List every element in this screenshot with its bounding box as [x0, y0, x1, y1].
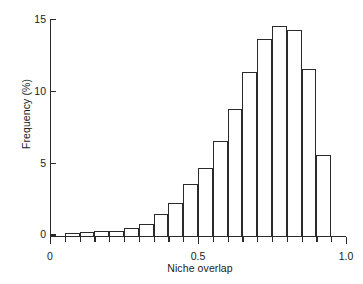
x-tick-label: 0.5	[191, 250, 206, 262]
x-axis-title: Niche overlap	[50, 262, 350, 274]
x-minor-tick	[109, 237, 110, 242]
x-minor-tick	[154, 237, 155, 242]
x-tick-label: 0	[47, 250, 53, 262]
histogram-bar	[65, 233, 80, 236]
x-minor-tick	[80, 237, 81, 242]
x-minor-tick	[302, 237, 303, 242]
x-minor-tick	[139, 237, 140, 242]
histogram-figure: Frequency (%) 051015 00.51.0 Niche overl…	[0, 0, 363, 284]
x-minor-tick	[183, 237, 184, 242]
histogram-bars	[50, 20, 346, 236]
x-minor-tick	[213, 237, 214, 242]
y-axis-title: Frequency (%)	[20, 44, 32, 184]
histogram-bar	[302, 69, 317, 236]
histogram-bar	[228, 109, 243, 235]
x-minor-tick	[94, 237, 95, 242]
y-tick-label: 5	[40, 157, 46, 169]
histogram-bar	[272, 26, 287, 236]
x-minor-tick	[331, 237, 332, 242]
histogram-bar	[257, 39, 272, 236]
x-tick-1.0: 1.0	[346, 237, 347, 244]
x-minor-tick	[272, 237, 273, 242]
y-tick-label: 15	[34, 13, 46, 25]
histogram-bar	[316, 155, 331, 235]
histogram-bar	[80, 232, 95, 236]
histogram-bar	[124, 228, 139, 235]
x-tick-label: 1.0	[339, 250, 354, 262]
plot-area: 051015 00.51.0	[50, 20, 346, 237]
histogram-bar	[183, 184, 198, 236]
y-tick-label: 0	[40, 228, 46, 240]
histogram-bar	[109, 231, 124, 236]
histogram-bar	[94, 231, 109, 235]
x-minor-tick	[228, 237, 229, 242]
histogram-bar	[198, 168, 213, 236]
histogram-bar	[213, 141, 228, 236]
x-minor-tick	[124, 237, 125, 242]
histogram-bar	[242, 72, 257, 236]
x-tick-0.5: 0.5	[198, 237, 199, 244]
x-minor-tick	[316, 237, 317, 242]
x-minor-tick	[287, 237, 288, 242]
x-minor-tick	[168, 237, 169, 242]
histogram-bar	[139, 224, 154, 235]
x-tick-0: 0	[50, 237, 51, 244]
x-minor-tick	[257, 237, 258, 242]
histogram-bar	[168, 203, 183, 236]
y-tick-label: 10	[34, 85, 46, 97]
histogram-bar	[154, 214, 169, 236]
histogram-bar	[287, 30, 302, 236]
x-minor-tick	[65, 237, 66, 242]
x-minor-tick	[242, 237, 243, 242]
